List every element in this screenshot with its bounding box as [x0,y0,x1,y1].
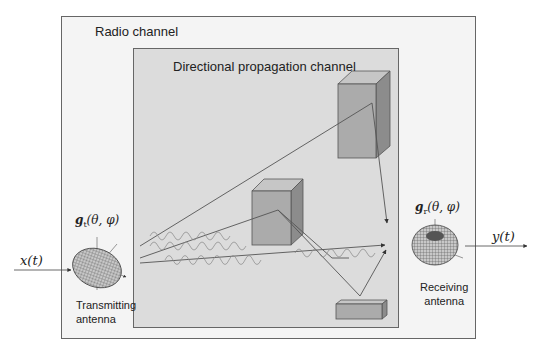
output-signal-label: y(t) [492,229,515,244]
radio-channel-label: Radio channel [95,24,178,39]
middle-building [252,179,303,245]
receive-gain-args: (θ, φ) [427,200,460,214]
transmit-gain-args: (θ, φ) [87,213,120,227]
transmitting-label-line2: antenna [76,312,136,326]
receiving-antenna-label: Receiving antenna [420,280,468,308]
transmitting-antenna-label: Transmitting antenna [76,298,136,326]
receiving-label-line1: Receiving [420,280,468,294]
receive-gain-label: gr(θ, φ) [415,200,460,216]
receiving-label-line2: antenna [420,294,468,308]
ground-block [336,300,387,319]
input-signal-label: x(t) [20,253,43,268]
propagation-diagram: Radio channel Directional propagation ch… [0,0,537,349]
directional-channel-label: Directional propagation channel [173,59,356,74]
tall-building [338,71,390,158]
transmitting-label-line1: Transmitting [76,298,136,312]
transmit-gain-label: gt(θ, φ) [75,213,119,229]
